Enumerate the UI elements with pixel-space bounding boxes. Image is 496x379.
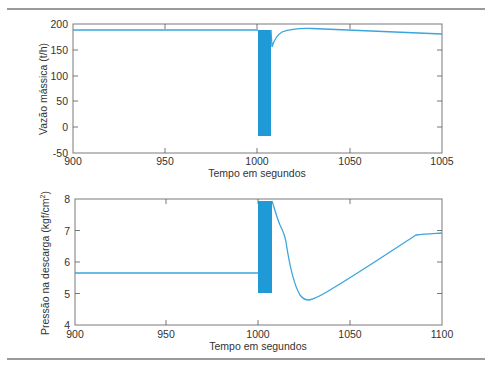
y-axis-title: Pressão na descarga (kgf/cm2) (39, 191, 51, 335)
y-tick-label: 8 (64, 193, 70, 205)
x-tick-label: 1000 (246, 328, 270, 340)
transient-band (258, 30, 271, 136)
y-axis-title-end: ) (39, 191, 51, 195)
x-tick-label: 1000 (245, 155, 269, 167)
y-tick-label: 7 (64, 225, 70, 237)
x-tick-label: 1050 (338, 155, 362, 167)
y-tick-label: 150 (50, 44, 68, 56)
x-tick-label: 950 (157, 328, 175, 340)
figure: 200 150 100 50 0 -50 900 950 1000 1050 1… (0, 0, 496, 379)
x-tick-label: 950 (156, 155, 174, 167)
plot-mass-flow: 200 150 100 50 0 -50 900 950 1000 1050 1… (37, 18, 454, 179)
y-tick-label: 5 (64, 288, 70, 300)
x-tick-label: 900 (66, 328, 84, 340)
plot-frame (73, 24, 442, 153)
y-tick-label: 6 (64, 256, 70, 268)
y-tick-label: 200 (50, 18, 68, 30)
x-tick-label: 900 (64, 155, 82, 167)
x-axis-title: Tempo em segundos (209, 340, 306, 352)
x-tick-label: 1005 (430, 155, 454, 167)
plot-discharge-pressure: 8 7 6 5 4 900 950 1000 1050 1100 Tempo e… (39, 191, 453, 352)
x-tick-label: 1050 (338, 328, 362, 340)
x-axis-title: Tempo em segundos (208, 167, 305, 179)
transient-band (258, 201, 272, 293)
y-tick-label: 0 (62, 121, 68, 133)
y-axis-title-main: Pressão na descarga (kgf/cm (39, 198, 51, 335)
y-axis-title: Vazão mássica (t/h) (37, 43, 49, 135)
y-tick-label: 100 (50, 70, 68, 82)
y-tick-label: 50 (56, 95, 68, 107)
x-tick-label: 1100 (431, 328, 454, 340)
